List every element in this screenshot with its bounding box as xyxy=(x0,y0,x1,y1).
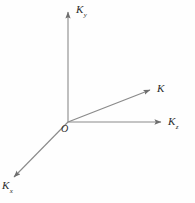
kx-axis-label: Kx xyxy=(2,180,12,194)
kx-axis-line xyxy=(14,122,68,177)
origin-label: O xyxy=(61,124,68,134)
k-vector-label-base: K xyxy=(157,82,164,94)
kz-label-subscript: z xyxy=(176,123,179,131)
axes-drawing xyxy=(0,0,195,203)
kx-label-base: K xyxy=(2,179,9,191)
ky-axis-label: Ky xyxy=(76,4,86,18)
kx-label-subscript: x xyxy=(10,187,13,195)
k-vector-line xyxy=(68,90,150,122)
k-vector-label: K xyxy=(157,83,164,97)
ky-label-subscript: y xyxy=(84,11,87,19)
kz-label-base: K xyxy=(168,115,175,127)
k-space-axes-diagram: Ky Kz Kx K O xyxy=(0,0,195,203)
kz-axis-label: Kz xyxy=(168,116,178,130)
ky-label-base: K xyxy=(76,3,83,15)
